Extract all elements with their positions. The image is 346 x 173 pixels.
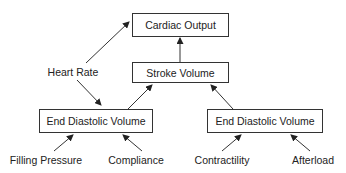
compliance-label: Compliance	[108, 154, 163, 166]
arrow-edv-left-to-sv	[128, 85, 152, 109]
afterload-label: Afterload	[292, 154, 334, 166]
arrow-hr-to-co	[86, 22, 129, 63]
cardiac-output-box: Cardiac Output	[132, 13, 229, 37]
edv-right-box: End Diastolic Volume	[207, 109, 323, 133]
cardiac-output-label: Cardiac Output	[145, 19, 216, 31]
arrow-compliance-to-edv	[123, 135, 142, 151]
stroke-volume-label: Stroke Volume	[146, 67, 214, 79]
arrow-contractility-to-edv	[222, 135, 241, 151]
arrow-edv-right-to-sv	[211, 85, 233, 109]
edv-left-box: End Diastolic Volume	[39, 109, 153, 133]
heart-rate-label: Heart Rate	[48, 66, 99, 78]
edv-left-label: End Diastolic Volume	[46, 115, 145, 127]
arrow-fp-to-edv	[54, 135, 73, 151]
edv-right-label: End Diastolic Volume	[215, 115, 314, 127]
stroke-volume-box: Stroke Volume	[132, 62, 229, 83]
arrow-afterload-to-edv	[291, 135, 310, 151]
filling-pressure-label: Filling Pressure	[10, 154, 82, 166]
arrow-hr-to-edv	[77, 80, 101, 105]
contractility-label: Contractility	[195, 154, 250, 166]
